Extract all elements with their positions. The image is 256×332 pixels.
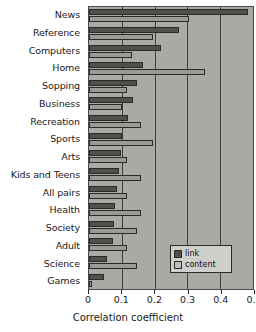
y-axis-label: Science — [0, 255, 84, 273]
y-axis-label: Sports — [0, 130, 84, 148]
bar-content — [89, 245, 127, 251]
y-axis-label: Adult — [0, 237, 84, 255]
bar-content — [89, 228, 137, 234]
bar-row — [89, 219, 253, 237]
y-axis-label: Sopping — [0, 77, 84, 95]
x-axis-tick-label: 0.5 — [246, 295, 256, 305]
bar-row — [89, 25, 253, 43]
bar-link — [89, 115, 128, 121]
bar-row — [89, 271, 253, 289]
bar-row — [89, 130, 253, 148]
bar-row — [89, 201, 253, 219]
bar-content — [89, 122, 141, 128]
bar-link — [89, 45, 161, 51]
bar-content — [89, 263, 137, 269]
bar-row — [89, 78, 253, 96]
bar-link — [89, 274, 104, 280]
bar-row — [89, 183, 253, 201]
y-axis-label: News — [0, 6, 84, 24]
legend: link content — [170, 245, 232, 273]
bar-content — [89, 281, 92, 287]
bar-row — [89, 166, 253, 184]
x-axis-tick-label: 0.1 — [114, 295, 129, 305]
bar-row — [89, 60, 253, 78]
bar-content — [89, 16, 189, 22]
bar-row — [89, 95, 253, 113]
legend-label-link: link — [185, 250, 199, 258]
bar-content — [89, 175, 141, 181]
bar-link — [89, 150, 121, 156]
bar-link — [89, 256, 107, 262]
bar-link — [89, 221, 114, 227]
x-axis-tick-label: 0 — [85, 295, 91, 305]
y-axis-label: Computers — [0, 42, 84, 60]
x-axis-tick-label: 0.2 — [147, 295, 162, 305]
y-axis-category-labels: NewsReferenceComputersHomeSoppingBusines… — [0, 6, 84, 290]
bar-content — [89, 140, 153, 146]
bar-row — [89, 42, 253, 60]
x-axis-tick-labels: 00.10.20.30.40.5 — [88, 295, 254, 308]
y-axis-label: Recreation — [0, 113, 84, 131]
legend-item-content: content — [174, 259, 228, 270]
bar-content — [89, 52, 132, 58]
y-axis-label: Arts — [0, 148, 84, 166]
bar-link — [89, 97, 133, 103]
bar-content — [89, 193, 127, 199]
legend-swatch-content-icon — [174, 261, 182, 269]
bar-link — [89, 238, 113, 244]
y-axis-label: Health — [0, 201, 84, 219]
bar-link — [89, 133, 122, 139]
bar-content — [89, 87, 127, 93]
bar-link — [89, 168, 119, 174]
gridline — [253, 7, 254, 289]
bar-row — [89, 148, 253, 166]
bar-link — [89, 9, 248, 15]
y-axis-label: Home — [0, 59, 84, 77]
bar-link — [89, 27, 179, 33]
bar-link — [89, 62, 143, 68]
bar-link — [89, 186, 117, 192]
bar-link — [89, 203, 115, 209]
bar-content — [89, 210, 141, 216]
bar-chart-figure: NewsReferenceComputersHomeSoppingBusines… — [0, 0, 256, 332]
y-axis-label: All pairs — [0, 184, 84, 202]
bar-row — [89, 113, 253, 131]
bar-content — [89, 157, 127, 163]
x-axis-tick-label: 0.4 — [213, 295, 228, 305]
bar-content — [89, 69, 205, 75]
bar-link — [89, 80, 137, 86]
legend-label-content: content — [185, 261, 216, 269]
bar-content — [89, 34, 153, 40]
bar-row — [89, 7, 253, 25]
y-axis-label: Business — [0, 95, 84, 113]
x-axis-title: Correlation coefficient — [0, 312, 256, 323]
y-axis-label: Games — [0, 272, 84, 290]
y-axis-label: Reference — [0, 24, 84, 42]
x-axis-tick-label: 0.3 — [180, 295, 195, 305]
bar-content — [89, 104, 122, 110]
legend-item-link: link — [174, 248, 228, 259]
y-axis-label: Kids and Teens — [0, 166, 84, 184]
legend-swatch-link-icon — [174, 250, 182, 258]
y-axis-label: Society — [0, 219, 84, 237]
